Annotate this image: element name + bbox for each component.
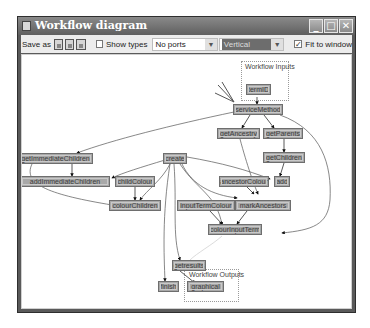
node-getAncestry[interactable]: getAncestry [217,128,260,139]
node-addImmediateChildren[interactable]: addImmediateChildren [21,176,110,187]
window-title: Workflow diagram [35,17,147,35]
node-create[interactable]: create [163,153,187,164]
diagram-canvas[interactable]: Workflow Inputs Workflow Outputs termID … [21,54,352,309]
workflow-outputs-label: Workflow Outputs [189,271,244,278]
save-dot-icon[interactable] [54,39,63,50]
save-png-icon[interactable] [65,39,74,50]
node-inputTermColour[interactable]: inputTermColour [177,200,235,211]
ports-select[interactable]: No ports ▼ [152,38,217,51]
workflow-inputs-label: Workflow Inputs [245,63,295,70]
chevron-down-icon[interactable]: ▼ [271,39,283,50]
fit-to-window-checkbox[interactable]: ✓ [294,40,302,48]
chevron-down-icon[interactable]: ▼ [205,39,217,50]
minimize-button[interactable]: _ [309,19,323,33]
save-svg-icon[interactable] [76,39,85,50]
node-add[interactable]: add [274,176,290,187]
title-bar[interactable]: Workflow diagram _ □ ✕ [18,17,355,35]
node-getParents[interactable]: getParents [263,128,303,139]
show-types-checkbox[interactable] [96,40,103,48]
node-childColour[interactable]: childColour [115,176,155,187]
node-getresults[interactable]: getresults [172,260,206,271]
ports-select-value: No ports [155,40,185,49]
node-serviceMethod[interactable]: serviceMethod [233,104,283,115]
toolbar: Save as Show types No ports ▼ Vertical ▼… [21,35,352,53]
close-button[interactable]: ✕ [339,19,353,33]
node-colourInputTerm[interactable]: colourInputTerm [208,224,262,235]
node-getChildren[interactable]: getChildren [263,152,305,163]
node-termID[interactable]: termID [246,84,271,95]
maximize-button[interactable]: □ [324,19,338,33]
node-getImmediateChildren[interactable]: getImmediateChildren [21,153,93,164]
orientation-select[interactable]: Vertical ▼ [219,38,284,51]
node-finish[interactable]: finish [158,281,179,292]
fit-to-window-label: Fit to window [305,40,352,49]
node-colourChildren[interactable]: colourChildren [109,200,161,211]
workflow-diagram-window: Workflow diagram _ □ ✕ Save as Show type… [17,16,356,313]
app-icon [22,21,31,31]
node-markAncestors[interactable]: markAncestors [235,200,291,211]
node-ancestorColour[interactable]: ancestorColour [219,176,269,187]
save-as-label: Save as [22,40,51,49]
node-graphical[interactable]: graphical [187,281,224,292]
show-types-label: Show types [106,40,147,49]
